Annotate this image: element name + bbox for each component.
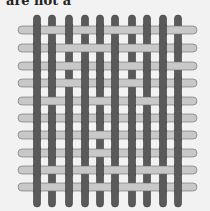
warp-over-crossing: [175, 165, 182, 176]
warp-over-crossing: [97, 113, 104, 124]
weft-strand: [18, 97, 197, 105]
warp-over-crossing: [160, 113, 167, 124]
warp-over-crossing: [160, 61, 167, 72]
warp-over-crossing: [112, 43, 119, 54]
warp-over-crossing: [160, 96, 167, 107]
warp-over-crossing: [160, 25, 167, 36]
warp-over-crossing: [144, 130, 151, 141]
warp-over-crossing: [129, 96, 136, 107]
warp-over-crossing: [175, 148, 182, 159]
warp-over-crossing: [34, 25, 41, 36]
warp-over-crossing: [34, 165, 41, 176]
warp-over-crossing: [82, 96, 89, 107]
warp-over-crossing: [129, 130, 136, 141]
weft-strand: [18, 166, 197, 174]
warp-over-crossing: [97, 78, 104, 89]
warp-over-crossing: [175, 182, 182, 193]
warp-over-crossing: [112, 148, 119, 159]
warp-over-crossing: [49, 113, 56, 124]
warp-over-crossing: [66, 113, 73, 124]
warp-over-crossing: [160, 78, 167, 89]
warp-over-crossing: [66, 130, 73, 141]
warp-over-crossing: [49, 130, 56, 141]
warp-over-crossing: [144, 113, 151, 124]
warp-over-crossing: [97, 61, 104, 72]
warp-over-crossing: [34, 113, 41, 124]
warp-over-crossing: [144, 148, 151, 159]
weft-strand: [18, 26, 197, 34]
warp-over-crossing: [49, 148, 56, 159]
weave-diagram: [0, 0, 210, 211]
warp-over-crossing: [129, 113, 136, 124]
weft-strand: [18, 79, 197, 87]
warp-over-crossing: [160, 130, 167, 141]
warp-over-crossing: [129, 165, 136, 176]
weft-strand: [18, 149, 197, 157]
warp-over-crossing: [34, 148, 41, 159]
warp-over-crossing: [66, 25, 73, 36]
warp-over-crossing: [34, 43, 41, 54]
warp-over-crossing: [82, 78, 89, 89]
warp-over-crossing: [82, 182, 89, 193]
warp-over-crossing: [49, 43, 56, 54]
warp-over-crossing: [160, 148, 167, 159]
warp-over-crossing: [175, 43, 182, 54]
warp-over-crossing: [82, 61, 89, 72]
warp-over-crossing: [129, 148, 136, 159]
warp-over-crossing: [82, 148, 89, 159]
warp-over-crossing: [112, 96, 119, 107]
warp-over-crossing: [160, 182, 167, 193]
warp-over-crossing: [112, 130, 119, 141]
warp-over-crossing: [175, 96, 182, 107]
warp-over-crossing: [82, 130, 89, 141]
warp-over-crossing: [97, 25, 104, 36]
weft-strand: [18, 114, 197, 122]
warp-over-crossing: [82, 113, 89, 124]
warp-over-crossing: [34, 78, 41, 89]
warp-over-crossing: [112, 113, 119, 124]
warp-over-crossing: [144, 78, 151, 89]
warp-over-crossing: [66, 148, 73, 159]
weft-strand: [18, 183, 197, 191]
warp-over-crossing: [144, 25, 151, 36]
warp-over-crossing: [175, 130, 182, 141]
warp-over-crossing: [66, 165, 73, 176]
warp-over-crossing: [66, 182, 73, 193]
warp-over-crossing: [66, 96, 73, 107]
warp-over-crossing: [175, 113, 182, 124]
warp-over-crossing: [49, 61, 56, 72]
warp-over-crossing: [112, 61, 119, 72]
warp-over-crossing: [34, 130, 41, 141]
warp-over-crossing: [97, 165, 104, 176]
warp-over-crossing: [34, 61, 41, 72]
warp-over-crossing: [112, 182, 119, 193]
warp-over-crossing: [112, 78, 119, 89]
warp-over-crossing: [144, 61, 151, 72]
weft-strand: [18, 131, 197, 139]
warp-over-crossing: [175, 78, 182, 89]
weft-strand: [18, 44, 197, 52]
warp-over-crossing: [160, 43, 167, 54]
weft-strand: [18, 62, 197, 70]
warp-over-crossing: [34, 96, 41, 107]
warp-over-crossing: [49, 78, 56, 89]
warp-over-crossing: [34, 182, 41, 193]
